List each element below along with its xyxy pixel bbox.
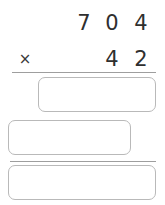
multiplicand-digit-ones: 4 [133, 8, 149, 38]
partial-product-2-input[interactable] [8, 120, 131, 155]
multiplier-row: × 4 2 [0, 44, 165, 74]
multiplier-digit-tens: 4 [104, 44, 120, 74]
final-product-input[interactable] [8, 165, 156, 200]
multiplicand-digit-tens: 0 [104, 8, 120, 38]
partial-products-divider-rule [10, 161, 156, 162]
multiplicand-row: 7 0 4 [0, 8, 165, 38]
operand-divider-rule [12, 72, 156, 73]
multiplication-operator-icon: × [18, 44, 32, 74]
long-multiplication-worksheet: 7 0 4 × 4 2 [0, 0, 165, 205]
multiplier-digit-ones: 2 [133, 44, 149, 74]
multiplicand-digit-hundreds: 7 [76, 8, 92, 38]
partial-product-1-input[interactable] [38, 77, 156, 112]
